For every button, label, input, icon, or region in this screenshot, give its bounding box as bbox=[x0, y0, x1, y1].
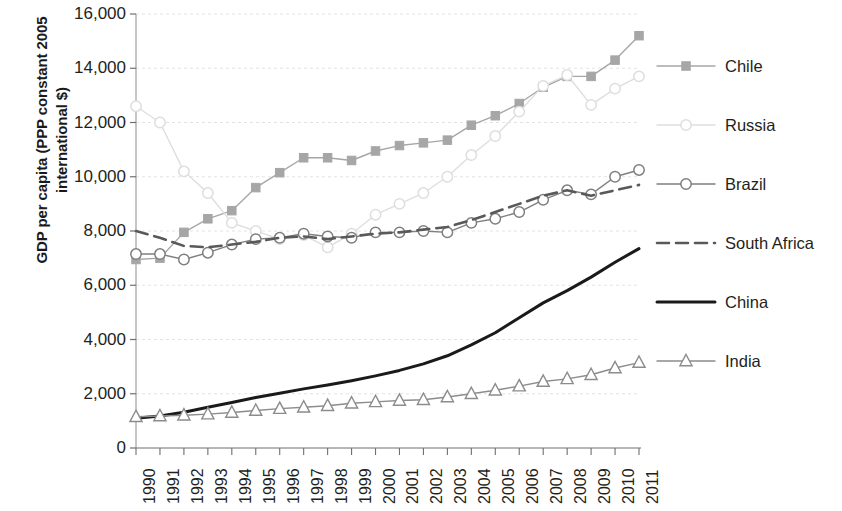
legend-swatch-india bbox=[655, 350, 717, 372]
x-tick-label: 2003 bbox=[453, 468, 469, 504]
series-chile bbox=[132, 31, 644, 263]
legend-item-russia[interactable]: Russia bbox=[655, 114, 775, 136]
series-russia bbox=[131, 70, 644, 253]
y-tick-label: 16,000 bbox=[48, 5, 126, 22]
legend-label: South Africa bbox=[725, 234, 814, 252]
legend-item-chile[interactable]: Chile bbox=[655, 55, 763, 77]
legend-item-india[interactable]: India bbox=[655, 350, 761, 372]
legend-label: Russia bbox=[725, 116, 775, 134]
x-tick-label: 2004 bbox=[477, 468, 493, 504]
x-tick-label: 1997 bbox=[310, 468, 326, 504]
legend-swatch-chile bbox=[655, 55, 717, 77]
y-tick-label: 2,000 bbox=[48, 385, 126, 402]
x-tick-label: 1993 bbox=[214, 468, 230, 504]
x-tick-label: 1995 bbox=[262, 468, 278, 504]
legend-item-south-africa[interactable]: South Africa bbox=[655, 232, 814, 254]
series-china bbox=[136, 249, 639, 419]
legend-item-china[interactable]: China bbox=[655, 291, 768, 313]
y-tick-label: 12,000 bbox=[48, 114, 126, 131]
legend-swatch-south-africa bbox=[655, 232, 717, 254]
legend-label: Chile bbox=[725, 57, 763, 75]
x-tick-label: 2008 bbox=[573, 468, 589, 504]
x-tick-label: 2010 bbox=[621, 468, 637, 504]
legend-swatch-china bbox=[655, 291, 717, 313]
legend-swatch-brazil bbox=[655, 173, 717, 195]
legend-item-brazil[interactable]: Brazil bbox=[655, 173, 766, 195]
x-tick-label: 1990 bbox=[142, 468, 158, 504]
y-tick-label: 14,000 bbox=[48, 59, 126, 76]
x-tick-label: 1991 bbox=[166, 468, 182, 504]
x-tick-label: 2000 bbox=[382, 468, 398, 504]
x-tick-label: 2002 bbox=[429, 468, 445, 504]
y-tick-label: 6,000 bbox=[48, 276, 126, 293]
x-tick-label: 2007 bbox=[549, 468, 565, 504]
x-tick-label: 2001 bbox=[405, 468, 421, 504]
x-tick-label: 2011 bbox=[645, 470, 661, 504]
x-tick-label: 2005 bbox=[501, 468, 517, 504]
series-india bbox=[130, 356, 645, 422]
legend-label: India bbox=[725, 352, 761, 370]
x-tick-label: 1996 bbox=[286, 468, 302, 504]
legend-swatch-russia bbox=[655, 114, 717, 136]
x-tick-label: 1998 bbox=[334, 468, 350, 504]
y-tick-label: 4,000 bbox=[48, 331, 126, 348]
x-tick-label: 1992 bbox=[190, 468, 206, 504]
x-tick-label: 2006 bbox=[525, 468, 541, 504]
x-tick-label: 1999 bbox=[358, 468, 374, 504]
y-tick-label: 8,000 bbox=[48, 222, 126, 239]
y-tick-label: 0 bbox=[48, 439, 126, 456]
legend-label: Brazil bbox=[725, 175, 766, 193]
x-tick-label: 2009 bbox=[597, 468, 613, 504]
gdp-per-capita-line-chart: GDP per capita (PPP constant 2005 intern… bbox=[0, 0, 842, 511]
y-tick-label: 10,000 bbox=[48, 168, 126, 185]
legend-label: China bbox=[725, 293, 768, 311]
x-tick-label: 1994 bbox=[238, 468, 254, 504]
